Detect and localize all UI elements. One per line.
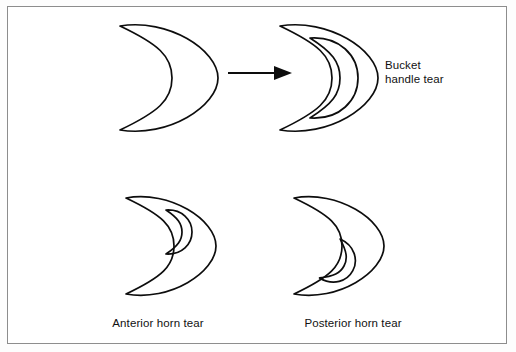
displaced-fragment (310, 38, 358, 118)
label-posterior-horn-tear: Posterior horn tear (248, 316, 458, 330)
meniscus-outline (126, 197, 216, 296)
figure-bucket-handle-tear (262, 8, 402, 148)
label-anterior-horn-tear: Anterior horn tear (58, 316, 258, 330)
figure-posterior-horn-tear (278, 182, 403, 310)
figure-intact-meniscus (100, 8, 240, 148)
diagram-frame (7, 6, 507, 344)
figure-anterior-horn-tear (110, 182, 235, 310)
meniscus-outline (294, 197, 384, 296)
anterior-tear-fragment (166, 210, 192, 254)
label-bucket-handle-tear: Bucket handle tear (385, 58, 444, 86)
diagram-page: Bucket handle tear Anterior horn tear Po… (0, 0, 516, 352)
meniscus-outline (120, 25, 218, 131)
